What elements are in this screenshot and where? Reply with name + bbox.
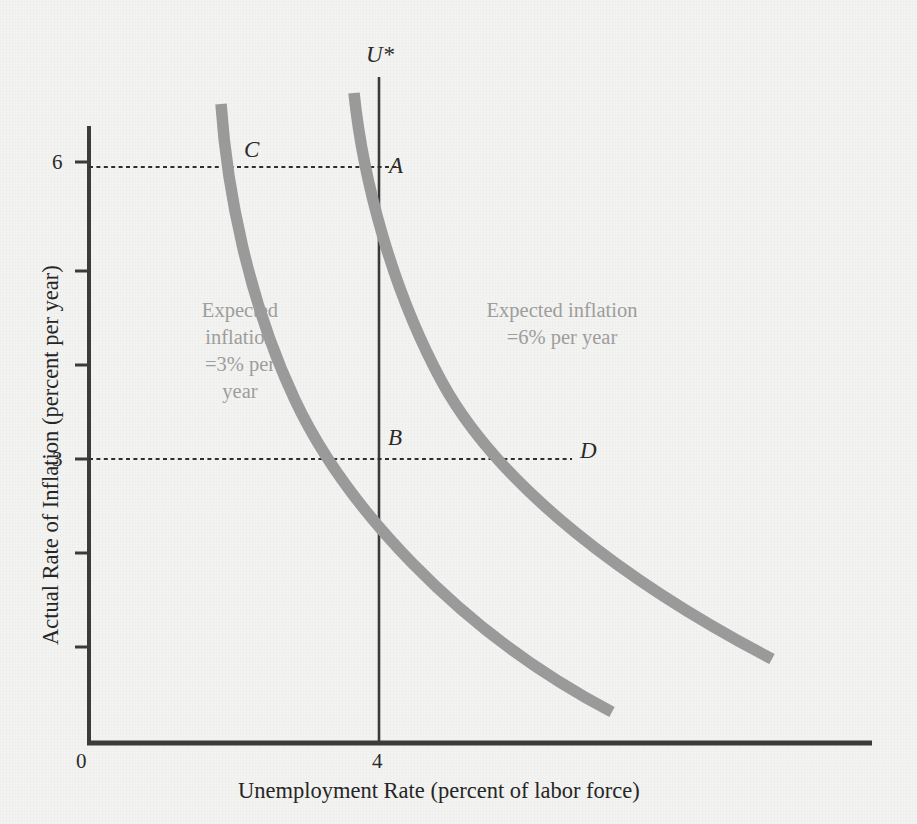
point-label-d: D <box>580 438 597 464</box>
phillips-curve-figure: U* 6 3 0 4 A B C D Expected inflation =3… <box>0 0 917 824</box>
x-tick-label-4: 4 <box>372 749 383 774</box>
phillips-curve-expected-3 <box>221 104 612 712</box>
u-star-label: U* <box>366 42 394 68</box>
y-tick-label-6: 6 <box>52 150 63 175</box>
point-label-a: A <box>389 153 403 179</box>
point-label-c: C <box>244 137 259 163</box>
plot-canvas <box>0 0 917 824</box>
y-axis-title: Actual Rate of Inflation (percent per ye… <box>38 265 64 645</box>
left-curve-note: Expected inflation =3% per year <box>160 297 320 405</box>
x-axis-title: Unemployment Rate (percent of labor forc… <box>238 778 640 804</box>
x-tick-label-0: 0 <box>76 749 87 774</box>
point-label-b: B <box>388 425 402 451</box>
right-curve-note: Expected inflation =6% per year <box>442 297 682 351</box>
